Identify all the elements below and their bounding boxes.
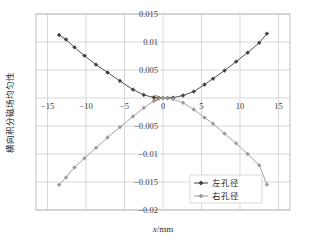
chart-legend: 左孔径右孔径	[190, 175, 262, 203]
legend-label: 右孔径	[212, 191, 239, 201]
y-tick-label: 0.015	[139, 9, 158, 19]
y-tick-label: 0.01	[143, 37, 158, 47]
y-tick-label: −0.01	[138, 149, 158, 159]
x-tick-label: 15	[274, 101, 283, 111]
y-tick-label: −0.015	[134, 177, 158, 187]
chart-figure: −15−10−5051015 0.0150.010.0050−0.005−0.0…	[0, 0, 309, 238]
x-tick-label: −5	[120, 101, 129, 111]
x-tick-label: 5	[199, 101, 203, 111]
y-tick-label: 0	[154, 93, 158, 103]
legend-label: 左孔径	[212, 178, 239, 188]
x-tick-label: 0	[161, 101, 165, 111]
chart-background	[0, 0, 309, 238]
x-axis-title: x/mm	[152, 224, 174, 234]
x-title-unit: /mm	[157, 224, 174, 234]
y-axis-title: 横向积分磁场均匀性	[5, 72, 15, 153]
y-tick-label: −0.02	[138, 205, 158, 215]
y-tick-label: 0.005	[139, 65, 158, 75]
x-tick-label: −15	[41, 101, 54, 111]
line-chart: −15−10−5051015 0.0150.010.0050−0.005−0.0…	[0, 0, 309, 238]
x-tick-label: −10	[79, 101, 92, 111]
y-tick-label: −0.005	[134, 121, 158, 131]
x-tick-label: 10	[236, 101, 245, 111]
